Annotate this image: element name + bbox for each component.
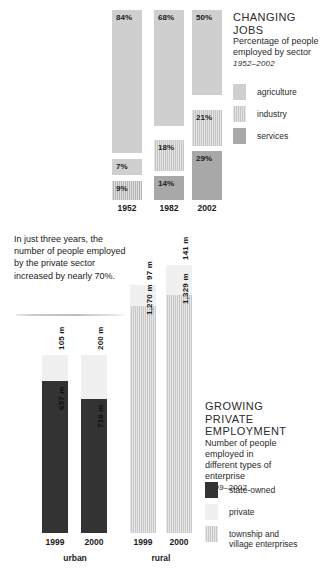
- private-employment-subtitle-line2: employed in: [205, 449, 331, 460]
- bar-segment-urban-1999-private: [42, 355, 68, 381]
- bar-axis-year-rural-1999: 1999: [127, 538, 159, 547]
- bar-label-urban-1999-state-owned: 657 m: [58, 386, 66, 410]
- infographic-canvas: 84% 7% 9% 1952 68% 18% 14% 1982: [0, 0, 334, 571]
- private-employment-chart: 105 m 657 m 1999 200 m 716 m 2000 urban …: [0, 0, 334, 571]
- legend-label-township: township and village enterprises: [229, 526, 298, 549]
- bar-label-rural-2000-township: 1,329 m: [182, 273, 190, 304]
- legend-swatch-state-owned: [205, 482, 218, 498]
- legend-swatch-township: [205, 526, 218, 542]
- bar-label-rural-1999-township: 1,270 m: [146, 284, 154, 315]
- legend-swatch-private: [205, 504, 218, 520]
- bar-label-urban-2000-state-owned: 716 m: [97, 404, 105, 428]
- bar-axis-year-urban-2000: 2000: [78, 538, 110, 547]
- bar-axis-year-urban-1999: 1999: [39, 538, 71, 547]
- bar-label-urban-1999-private: 105 m: [58, 326, 66, 350]
- bar-label-rural-1999-private: 97 m: [146, 261, 154, 280]
- private-employment-title-line1: GROWING: [205, 400, 331, 413]
- private-employment-subtitle-line1: Number of people: [205, 438, 331, 449]
- private-employment-heading: GROWING PRIVATE EMPLOYMENT Number of peo…: [205, 400, 331, 493]
- legend-item-state-owned: state-owned: [205, 482, 275, 498]
- bar-axis-group-urban: urban: [42, 554, 108, 563]
- legend-item-township: township and village enterprises: [205, 526, 298, 549]
- bar-label-rural-2000-private: 141 m: [182, 236, 190, 260]
- bar-segment-rural-2000-township: [166, 295, 192, 533]
- private-employment-subtitle-line4: enterprise: [205, 471, 331, 482]
- private-employment-title-line2: PRIVATE EMPLOYMENT: [205, 413, 331, 438]
- bar-segment-rural-1999-township: [130, 306, 156, 533]
- bar-label-urban-2000-private: 200 m: [97, 326, 105, 350]
- legend-label-state-owned: state-owned: [229, 482, 275, 495]
- bar-segment-urban-2000-private: [81, 355, 107, 399]
- private-employment-subtitle-line3: different types of: [205, 460, 331, 471]
- bar-axis-group-rural: rural: [130, 554, 192, 563]
- legend-item-private: private: [205, 504, 255, 520]
- bar-axis-year-rural-2000: 2000: [163, 538, 195, 547]
- legend-label-private: private: [229, 504, 255, 517]
